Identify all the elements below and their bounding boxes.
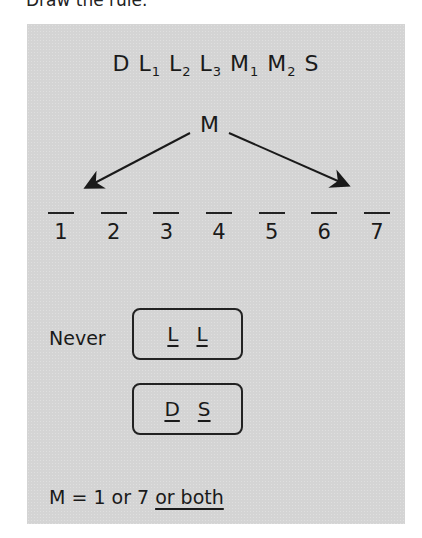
position-slots: 1 2 3 4 5 6 7 [47,212,391,244]
slot-1: 1 [47,212,75,244]
slot-3: 3 [152,212,180,244]
arrow-left-icon [87,133,190,187]
never-pair-ds: D S [132,383,243,435]
diagram-panel: D L1 L2 L3 M1 M2 S M 1 2 3 4 5 6 7 Never… [27,24,405,524]
slot-7: 7 [363,212,391,244]
slot-6: 6 [310,212,338,244]
arrows-icon [27,24,405,224]
never-label: Never [49,327,106,349]
heading: Draw the rule. [26,0,147,10]
slot-5: 5 [258,212,286,244]
slot-2: 2 [100,212,128,244]
arrow-right-icon [229,133,347,185]
never-pair-ll: L L [132,308,243,360]
m-position-rule: M = 1 or 7 or both [49,486,224,508]
slot-4: 4 [205,212,233,244]
